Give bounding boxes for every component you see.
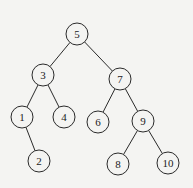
tree-node-4: 4 <box>53 106 75 128</box>
edge-5-7 <box>85 42 113 71</box>
tree-nodes: 53714692810 <box>11 23 179 175</box>
node-label: 10 <box>163 157 175 169</box>
edge-1-2 <box>26 127 35 150</box>
tree-svg: 53714692810 <box>0 0 193 188</box>
edge-7-6 <box>103 89 115 112</box>
tree-node-3: 3 <box>32 64 54 86</box>
node-label: 1 <box>19 111 25 123</box>
node-label: 5 <box>74 28 80 40</box>
node-label: 3 <box>40 69 46 81</box>
node-label: 7 <box>117 73 123 85</box>
tree-node-10: 10 <box>157 152 179 174</box>
edge-3-4 <box>48 85 59 107</box>
tree-node-8: 8 <box>107 153 129 175</box>
tree-node-9: 9 <box>132 110 154 132</box>
node-label: 4 <box>61 111 67 123</box>
binary-tree-diagram: 53714692810 <box>0 0 193 188</box>
node-label: 2 <box>36 155 42 167</box>
edge-3-1 <box>27 85 38 107</box>
node-label: 8 <box>115 158 121 170</box>
tree-node-6: 6 <box>87 111 109 133</box>
node-label: 6 <box>95 116 101 128</box>
tree-node-2: 2 <box>28 150 50 172</box>
tree-edges <box>26 42 162 155</box>
edge-9-10 <box>149 130 163 153</box>
tree-node-5: 5 <box>66 23 88 45</box>
edge-9-8 <box>124 131 138 155</box>
edge-7-9 <box>125 89 137 112</box>
edge-5-3 <box>50 42 70 66</box>
node-label: 9 <box>140 115 146 127</box>
tree-node-7: 7 <box>109 68 131 90</box>
tree-node-1: 1 <box>11 106 33 128</box>
